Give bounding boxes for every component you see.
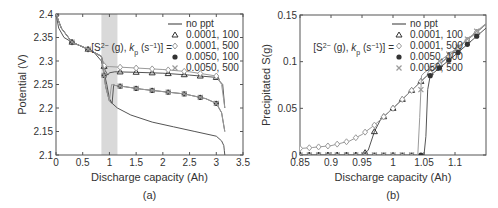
x-tick-label: 1 (107, 157, 113, 168)
cross-marker (173, 66, 178, 71)
shaded-region (101, 14, 117, 155)
figure: 00.511.522.533.52.12.152.22.252.32.352.4… (0, 0, 498, 208)
y-tick-label: 0 (291, 150, 297, 161)
diamond-marker (325, 143, 330, 149)
y-tick-label: 2.2 (39, 103, 53, 114)
diamond-marker (344, 139, 349, 145)
x-tick-label: 1.05 (414, 157, 434, 168)
diamond-marker (353, 135, 358, 141)
legend-entry: no ppt (410, 18, 438, 29)
x-axis-label: Discharge capacity (Ah) (91, 171, 208, 183)
y-tick-label: 2.4 (39, 9, 53, 20)
circle-marker (465, 42, 470, 47)
y-tick-label: 2.1 (39, 150, 53, 161)
y-tick-label: 2.3 (39, 56, 53, 67)
x-tick-label: 1 (390, 157, 396, 168)
x-tick-label: 1.1 (448, 157, 462, 168)
circle-marker (396, 54, 401, 59)
panel-caption: (a) (143, 189, 156, 201)
triangle-marker (396, 32, 402, 37)
x-tick-label: 0.95 (352, 157, 372, 168)
diamond-marker (134, 65, 139, 71)
legend-entry: 0.0050, 100 (186, 51, 239, 62)
y-tick-label: 2.35 (34, 32, 54, 43)
y-axis-label: Precipitated S(g) (260, 44, 272, 126)
x-tick-label: 3 (214, 157, 220, 168)
circle-marker (172, 54, 177, 59)
legend-entry: 0.0001, 100 (186, 29, 239, 40)
diamond-marker (298, 145, 303, 151)
chart-a: 00.511.522.533.52.12.152.22.252.32.352.4… (16, 9, 250, 202)
legend-title: [S2− (g), kp (s−1)] = (313, 42, 394, 57)
x-tick-label: 0 (53, 157, 59, 168)
diamond-marker (118, 64, 123, 70)
y-tick-label: 0.15 (278, 10, 298, 21)
x-tick-label: 2.5 (183, 157, 197, 168)
x-tick-label: 2 (160, 157, 166, 168)
x-axis-label: Discharge capacity (Ah) (335, 171, 452, 183)
x-tick-label: 3.5 (236, 157, 250, 168)
circle-marker (474, 34, 479, 39)
diamond-marker (316, 144, 321, 150)
diamond-marker (166, 67, 171, 73)
y-tick-label: 0.1 (283, 56, 297, 67)
x-tick-label: 1.5 (129, 157, 143, 168)
chart-b: 0.850.90.9511.051.100.050.10.15Discharge… (260, 10, 486, 202)
legend: no ppt0.0001, 1000.0001, 5000.0050, 1000… (313, 18, 463, 73)
x-tick-label: 0.5 (76, 157, 90, 168)
y-tick-label: 2.25 (34, 79, 54, 90)
y-tick-label: 0.05 (278, 103, 298, 114)
y-tick-label: 2.15 (34, 126, 54, 137)
legend-entry: 0.0050, 100 (410, 51, 463, 62)
legend-entry: 0.0050, 500 (410, 62, 463, 73)
legend-entry: 0.0001, 500 (410, 40, 463, 51)
triangle-marker (172, 32, 178, 37)
diamond-marker (307, 145, 312, 151)
diamond-marker (150, 66, 155, 72)
diamond-marker (363, 129, 368, 135)
panel-caption: (b) (386, 189, 399, 201)
cross-marker (397, 66, 402, 71)
legend-entry: no ppt (186, 18, 214, 29)
diamond-marker (397, 43, 402, 49)
y-axis-label: Potential (V) (16, 54, 28, 115)
legend-entry: 0.0001, 500 (186, 40, 239, 51)
legend-entry: 0.0001, 100 (410, 29, 463, 40)
circle-marker (428, 73, 433, 78)
legend-entry: 0.0050, 500 (186, 62, 239, 73)
x-tick-label: 0.9 (324, 157, 338, 168)
diamond-marker (173, 43, 178, 49)
diamond-marker (335, 141, 340, 147)
